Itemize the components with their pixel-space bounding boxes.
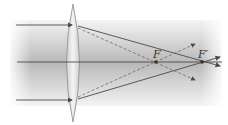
lens-diagram: F F′ [0, 0, 228, 125]
label-f-prime: F′ [197, 48, 209, 61]
label-f: F [152, 48, 161, 61]
